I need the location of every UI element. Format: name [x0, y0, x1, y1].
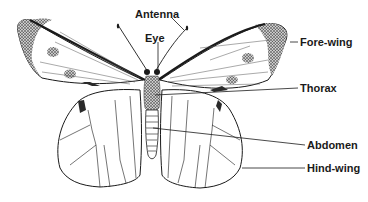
- left-hind-wing: [58, 90, 142, 187]
- thorax: [144, 76, 160, 111]
- abdomen-label: Abdomen: [307, 139, 358, 151]
- hind-wing-label: Hind-wing: [307, 162, 360, 174]
- fore-wing-label: Fore-wing: [300, 36, 353, 48]
- right-eye: [154, 69, 160, 75]
- abdomen: [146, 110, 159, 159]
- left-eye: [144, 69, 150, 75]
- left-antenna: [118, 25, 148, 72]
- antenna-label: Antenna: [135, 8, 179, 20]
- right-hind-wing: [161, 90, 243, 188]
- right-fore-wing: [158, 23, 287, 92]
- eye-label: Eye: [145, 32, 165, 44]
- thorax-label: Thorax: [300, 82, 337, 94]
- left-fore-wing: [18, 19, 146, 87]
